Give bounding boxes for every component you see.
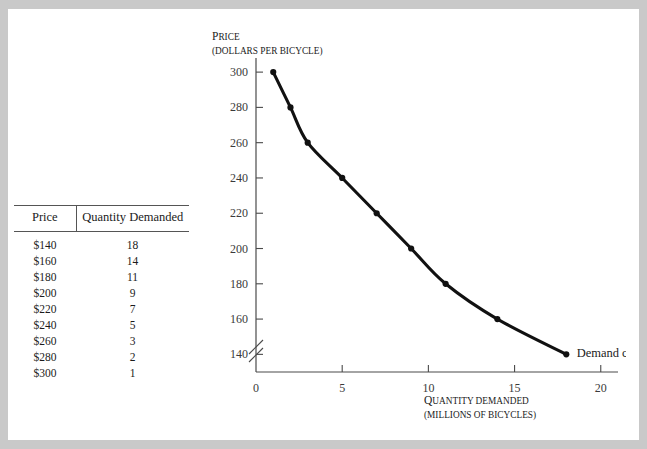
frame-band-right [639,0,647,449]
x-axis-title-rest: UANTITY DEMANDED [432,396,529,406]
cell-quantity: 14 [76,253,189,269]
frame-band-left [0,0,8,449]
y-axis-ticks: 140160180200220240260280300 [230,65,263,361]
demand-curve-line [273,72,566,354]
cell-price: $160 [14,253,76,269]
table-row: $2405 [14,317,189,333]
figure-page: Price Quantity Demanded $14018$16014$180… [0,0,647,449]
demand-curve-chart: PRICE (DOLLARS PER BICYCLE) 140160180200… [206,18,626,438]
demand-data-point [287,104,293,110]
table-row: $2207 [14,301,189,317]
x-axis-ticks: 05101520 [253,365,607,395]
frame-band-bottom [0,440,647,449]
column-header-price: Price [14,206,76,232]
cell-quantity: 7 [76,301,189,317]
y-tick-label: 240 [230,171,248,185]
x-tick-label: 0 [253,381,259,395]
demand-data-point [408,245,414,251]
table-row: $18011 [14,269,189,285]
y-tick-label: 280 [230,100,248,114]
demand-data-point [339,175,345,181]
column-header-quantity: Quantity Demanded [76,206,189,232]
demand-curve-points [270,69,569,357]
table-row: $3001 [14,365,189,381]
demand-data-point [374,210,380,216]
demand-data-point [563,351,569,357]
y-axis-title: PRICE [212,30,240,42]
cell-quantity: 18 [76,232,189,254]
y-tick-label: 180 [230,277,248,291]
demand-data-point [270,69,276,75]
y-tick-label: 200 [230,242,248,256]
cell-quantity: 3 [76,333,189,349]
demand-data-point [305,140,311,146]
cell-price: $140 [14,232,76,254]
cell-price: $240 [14,317,76,333]
cell-quantity: 1 [76,365,189,381]
y-tick-label: 260 [230,136,248,150]
cell-price: $260 [14,333,76,349]
table-header-row: Price Quantity Demanded [14,206,189,232]
y-tick-label: 160 [230,312,248,326]
table-row: $14018 [14,232,189,254]
x-axis-title: QUANTITY DEMANDED [424,394,529,406]
x-tick-label: 20 [595,381,607,395]
cell-quantity: 9 [76,285,189,301]
y-tick-label: 220 [230,206,248,220]
demand-data-point [443,281,449,287]
x-tick-label: 10 [422,381,434,395]
demand-curve-label: Demand curve [577,346,626,360]
cell-quantity: 2 [76,349,189,365]
table-row: $2603 [14,333,189,349]
table-row: $2802 [14,349,189,365]
x-axis-units: (MILLIONS OF BICYCLES) [424,410,536,421]
demand-data-point [494,316,500,322]
demand-schedule-table: Price Quantity Demanded $14018$16014$180… [14,205,189,381]
x-tick-label: 15 [509,381,521,395]
cell-price: $300 [14,365,76,381]
table-row: $2009 [14,285,189,301]
table-row: $16014 [14,253,189,269]
x-tick-label: 5 [339,381,345,395]
cell-price: $220 [14,301,76,317]
frame-band-top [0,0,647,9]
cell-quantity: 11 [76,269,189,285]
y-axis-units: (DOLLARS PER BICYCLE) [212,46,323,57]
cell-price: $200 [14,285,76,301]
chart-canvas: PRICE (DOLLARS PER BICYCLE) 140160180200… [206,18,626,438]
y-tick-label: 300 [230,65,248,79]
cell-price: $180 [14,269,76,285]
y-tick-label: 140 [230,347,248,361]
y-axis-title-rest: RICE [218,32,239,42]
cell-price: $280 [14,349,76,365]
cell-quantity: 5 [76,317,189,333]
